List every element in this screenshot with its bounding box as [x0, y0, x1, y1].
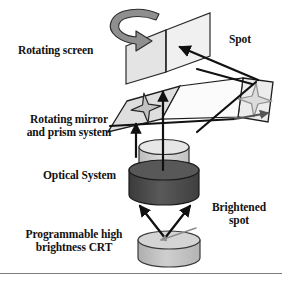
crt-group: [138, 231, 200, 267]
label-optical-system: Optical System: [43, 169, 116, 182]
label-programmable-high-brightness-crt: Programmable high brightness CRT: [8, 228, 140, 254]
optical-system-diagram: Rotating screen Rotating mirror and pris…: [0, 0, 282, 282]
label-rotating-mirror-and-prism-system: Rotating mirror and prism system: [13, 113, 125, 139]
prism-connecting-face: [162, 78, 243, 119]
label-spot: Spot: [229, 33, 251, 46]
figure-bottom-rule: [0, 273, 282, 274]
rotating-screen-panel-right: [166, 13, 210, 72]
label-brightened-spot: Brightened spot: [200, 201, 278, 227]
label-rotating-screen: Rotating screen: [18, 44, 93, 57]
